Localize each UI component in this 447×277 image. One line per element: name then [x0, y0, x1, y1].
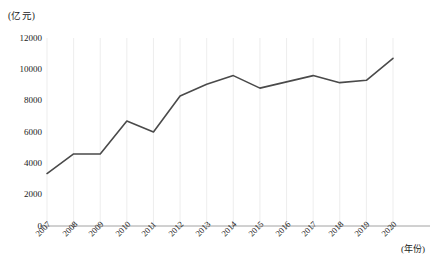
y-axis-tick-label: 12000	[2, 34, 42, 43]
y-axis-tick-label: 8000	[2, 96, 42, 105]
vertical-gridlines	[47, 38, 393, 226]
y-axis-tick-labels: 020004000600080001000012000	[0, 0, 42, 277]
y-axis-tick-label: 6000	[2, 128, 42, 137]
x-axis-caption: (年份)	[401, 242, 425, 255]
data-series-line	[47, 58, 393, 173]
line-chart: (亿元) 020004000600080001000012000 2007200…	[0, 0, 447, 277]
y-axis-tick-label: 2000	[2, 190, 42, 199]
y-axis-tick-label: 10000	[2, 65, 42, 74]
y-axis-tick-label: 4000	[2, 159, 42, 168]
